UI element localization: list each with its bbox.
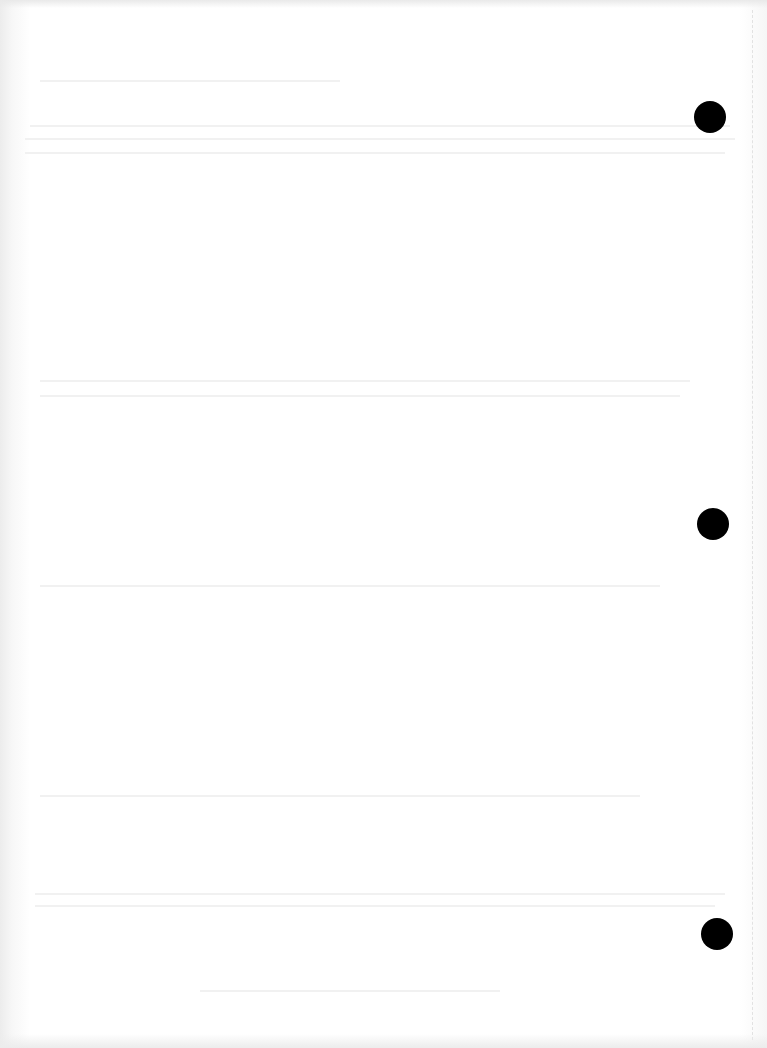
bleed-through-line xyxy=(200,990,500,992)
bleed-through-line xyxy=(25,138,735,140)
bottom-edge-shadow xyxy=(0,1034,767,1048)
bleed-through-line xyxy=(30,125,730,127)
top-edge-shadow xyxy=(0,0,767,8)
margin-dashed-line xyxy=(752,10,753,1040)
bleed-through-line xyxy=(40,585,660,587)
bleed-through-line xyxy=(40,380,690,382)
bleed-through-line xyxy=(35,905,715,907)
punch-hole-middle xyxy=(697,508,729,540)
bleed-through-line xyxy=(40,795,640,797)
bleed-through-line xyxy=(25,152,725,154)
bleed-through-line xyxy=(40,80,340,82)
bleed-through-line xyxy=(35,893,725,895)
scanned-page xyxy=(0,0,767,1048)
punch-hole-bottom xyxy=(701,918,733,950)
bleed-through-line xyxy=(40,395,680,397)
punch-hole-top xyxy=(694,101,726,133)
